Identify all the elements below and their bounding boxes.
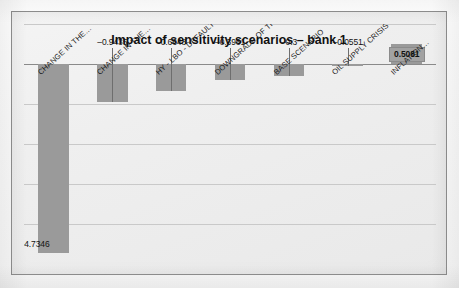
gridline xyxy=(24,224,436,225)
gridline xyxy=(24,104,436,105)
category-label: OIL SUPPLY CRISIS xyxy=(330,24,391,77)
plot-area: –4.7346CHANGE IN THE…–0.9435CHANGE IN TH… xyxy=(24,24,436,264)
screenshot-root: Impact of sensitivity scenarios – bank 1… xyxy=(0,0,459,288)
gridline xyxy=(24,144,436,145)
bar-value-label: –0.3 xyxy=(281,37,297,47)
bar-value-label: –4.7346 xyxy=(24,239,50,249)
gridline xyxy=(24,184,436,185)
bar[interactable] xyxy=(38,64,69,253)
chart-frame: Impact of sensitivity scenarios – bank 1… xyxy=(11,11,447,275)
